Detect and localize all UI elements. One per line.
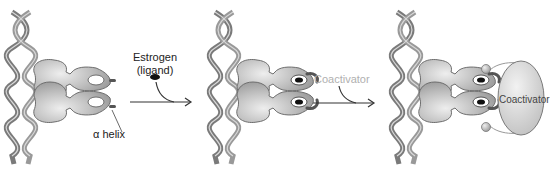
alpha-helix-label: α helix (93, 128, 125, 141)
receptor-dimer-1 (34, 60, 116, 123)
panel-unbound (6, 12, 122, 164)
coactivator-contact-bottom (482, 123, 491, 132)
panel-coactivator-bound (391, 12, 544, 164)
alpha-helix-bottom (109, 105, 116, 108)
step-arrow-1 (130, 74, 191, 106)
estrogen-label-line2: (ligand) (133, 64, 177, 77)
coactivator-step-label: Coactivator (314, 73, 370, 86)
ligand-pocket-empty-top (88, 75, 104, 85)
step-arrow-2 (313, 86, 374, 107)
dna-helix-1 (6, 12, 36, 164)
coactivator-contact-top (482, 65, 491, 74)
ligand-pocket-empty-bottom (88, 97, 104, 107)
coactivator-body-label: Coactivator (499, 93, 550, 106)
estrogen-label: Estrogen (ligand) (133, 51, 177, 77)
estrogen-label-line1: Estrogen (133, 51, 177, 64)
panel-ligand-bound (209, 12, 317, 164)
alpha-helix-top (109, 79, 116, 82)
